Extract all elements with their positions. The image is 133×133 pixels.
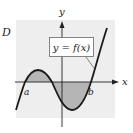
x-axis-arrow-icon	[112, 80, 119, 85]
point-a-label: a	[24, 87, 29, 97]
function-label: y = f(x)	[52, 42, 91, 53]
point-b-label: b	[88, 87, 94, 97]
y-axis-label: y	[58, 6, 65, 17]
x-axis-label: x	[122, 76, 128, 87]
region-label: D	[1, 26, 11, 39]
area-diagram: y = f(x) D y x a b	[0, 0, 133, 133]
